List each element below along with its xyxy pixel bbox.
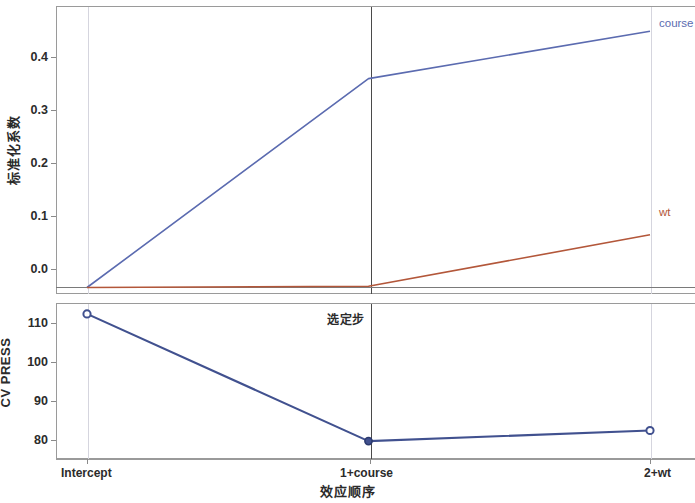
reference-line-intercept-bottom xyxy=(88,304,89,459)
ytick-top-label: 0.3 xyxy=(31,103,48,117)
ytick-mark-top-0.4 xyxy=(51,57,56,58)
reference-line-selected-step-top xyxy=(371,7,372,294)
reference-line-selected-step-bottom xyxy=(371,304,372,459)
chart-canvas: 0.4 0.3 0.2 0.1 0.0 标准化系数 110 100 90 80 xyxy=(0,0,695,503)
top-panel-plot-area xyxy=(57,7,695,293)
xtick-mark-intercept xyxy=(87,459,88,464)
y-axis-title-top: 标准化系数 xyxy=(3,110,22,190)
ytick-mark-bottom-110 xyxy=(51,323,56,324)
x-axis-title: 效应顺序 xyxy=(0,481,695,500)
xtick-mark-1course xyxy=(370,459,371,464)
reference-line-2wt-bottom xyxy=(651,304,652,459)
x-axis-baseline xyxy=(56,459,695,460)
reference-line-intercept-top xyxy=(88,7,89,294)
ytick-bottom-label: 80 xyxy=(34,433,48,447)
xtick-label-1course: 1+course xyxy=(340,466,393,480)
selected-step-annotation: 选定步 xyxy=(327,310,365,327)
ytick-bottom-label: 100 xyxy=(27,355,48,369)
ytick-top-label: 0.1 xyxy=(31,209,48,223)
bottom-panel-plot-area xyxy=(57,304,695,458)
xtick-label-2wt: 2+wt xyxy=(644,466,671,480)
bottom-panel-frame xyxy=(56,303,695,459)
top-panel-frame xyxy=(56,6,695,294)
ytick-mark-top-0.2 xyxy=(51,163,56,164)
xtick-mark-2wt xyxy=(650,459,651,464)
ytick-mark-top-0.3 xyxy=(51,110,56,111)
reference-line-2wt-top xyxy=(651,7,652,294)
xtick-label-intercept: Intercept xyxy=(61,466,112,480)
y-axis-title-bottom: CV PRESS xyxy=(0,328,13,418)
ytick-bottom-label: 110 xyxy=(28,316,48,330)
ytick-top-label: 0.4 xyxy=(31,50,48,64)
ytick-bottom-label: 90 xyxy=(34,394,48,408)
series-label-course: course xyxy=(659,17,694,29)
ytick-top-label: 0.2 xyxy=(31,156,48,170)
ytick-mark-bottom-100 xyxy=(51,362,56,363)
ytick-mark-top-0.1 xyxy=(51,216,56,217)
ytick-mark-bottom-80 xyxy=(51,440,56,441)
series-label-wt: wt xyxy=(659,206,671,218)
ytick-mark-bottom-90 xyxy=(51,401,56,402)
ytick-mark-top-0.0 xyxy=(51,269,56,270)
ytick-top-label: 0.0 xyxy=(31,262,48,276)
